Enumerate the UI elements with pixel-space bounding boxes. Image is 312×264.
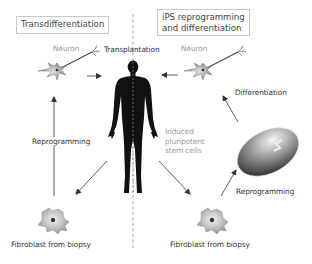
differentiation-label: Differentiation	[235, 88, 287, 97]
arrow-ipsc-to-neuron	[223, 96, 238, 122]
arrow-fibroblast-to-ipsc	[221, 170, 236, 196]
ips-title-line1: iPS reprogramming	[162, 12, 245, 23]
transdifferentiation-title-box: Transdifferentiation	[16, 16, 109, 34]
diagram-canvas: Transdifferentiation iPS reprogramming a…	[0, 0, 312, 264]
fibroblast-right-icon	[197, 208, 228, 234]
ips-title-box: iPS reprogramming and differentiation	[157, 9, 250, 36]
ipsc-label: Induced pluripotent stem cells	[165, 127, 205, 156]
reprogramming-left-label: Reprogramming	[31, 137, 91, 146]
ipsc-label-line2: pluripotent	[165, 137, 205, 147]
transplantation-label: Transplantation	[104, 45, 160, 54]
ipsc-label-line1: Induced	[165, 127, 205, 137]
reprogramming-right-label: Reprogramming	[236, 187, 294, 196]
diagram-graphics	[0, 0, 312, 264]
fibroblast-left-icon	[38, 208, 69, 234]
ips-title-line2: and differentiation	[162, 23, 245, 34]
ipsc-label-line3: stem cells	[165, 146, 205, 156]
fibroblast-left-label: Fibroblast from biopsy	[11, 240, 91, 249]
arrow-body-to-left-fibroblast	[76, 161, 107, 194]
transdifferentiation-title: Transdifferentiation	[21, 19, 104, 29]
fibroblast-right-label: Fibroblast from biopsy	[170, 240, 250, 249]
arrow-body-to-right-fibroblast	[159, 161, 190, 194]
neuron-left-label: Neuron	[53, 44, 79, 53]
neuron-right-label: Neuron	[181, 44, 207, 53]
ipsc-cell-icon	[229, 118, 307, 186]
